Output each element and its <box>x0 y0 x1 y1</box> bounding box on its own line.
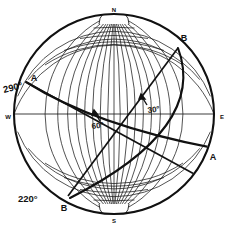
angle-label-30: 30° <box>147 104 160 115</box>
cardinal-label-west: W <box>5 114 11 120</box>
angle-label-60: 60° <box>91 120 104 131</box>
plane-label-a-lower: A <box>210 152 217 162</box>
plane-label-b-upper: B <box>181 33 188 43</box>
cardinal-label-north: N <box>112 7 116 13</box>
plane-label-a-upper: A <box>31 73 38 83</box>
cardinal-label-east: E <box>220 114 224 120</box>
cardinal-label-south: S <box>112 218 116 224</box>
bearing-label-220: 220° <box>18 193 38 204</box>
plane-label-b-lower: B <box>61 203 68 213</box>
stereonet-svg: N E S W 290° 220° A A B B 60° 30° <box>0 0 230 226</box>
stereonet-figure: N E S W 290° 220° A A B B 60° 30° <box>0 0 230 226</box>
